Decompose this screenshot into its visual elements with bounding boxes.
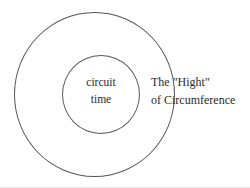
outer-circle-label-line-2: of Circumference [151,91,250,109]
diagram-canvas: circuit time The "Hight" of Circumferenc… [0,0,250,188]
inner-circle-label-line-1: circuit [62,74,140,91]
inner-circle-label-line-2: time [62,91,140,108]
canvas-bottom-border [0,187,250,188]
outer-circle-label-line-1: The "Hight" [151,73,250,91]
outer-circle-label: The "Hight" of Circumference [151,73,250,109]
inner-circle-label: circuit time [62,74,140,108]
